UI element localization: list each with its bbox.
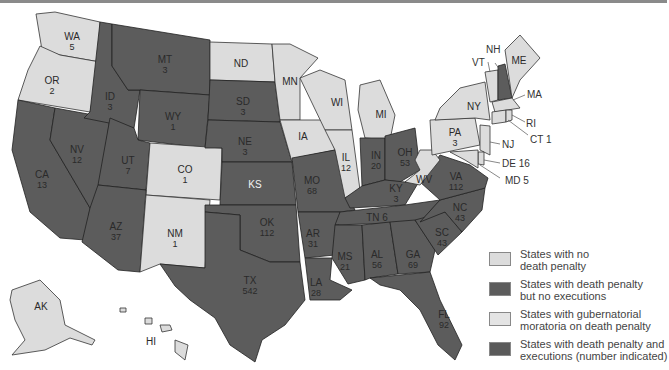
legend-swatch [489, 342, 511, 356]
state-AK [10, 280, 95, 355]
label-NC: NC43 [453, 203, 467, 223]
label-NM: NM1 [167, 229, 183, 249]
legend-item-no-death-penalty: States with nodeath penalty [489, 248, 669, 273]
state-NJ [480, 125, 490, 155]
label-ND: ND [234, 59, 248, 69]
label-ME: ME [512, 56, 527, 66]
legend-swatch [489, 312, 511, 326]
label-GA: GA69 [406, 250, 420, 270]
label-OR: OR2 [45, 76, 60, 96]
label-NH: NH [486, 45, 500, 55]
label-UT: UT7 [121, 156, 134, 176]
label-NY: NY [467, 102, 481, 112]
legend: States with nodeath penalty States with … [489, 248, 669, 368]
label-MN: MN [282, 77, 298, 87]
label-MO: MO68 [304, 176, 320, 196]
label-LA: LA28 [310, 278, 322, 298]
label-CA: CA13 [35, 170, 49, 190]
label-AK: AK [34, 302, 47, 312]
label-AR: AR31 [306, 229, 320, 249]
label-WY: WY1 [165, 112, 181, 132]
label-CT: CT 1 [530, 135, 552, 145]
label-NV: NV12 [70, 145, 84, 165]
label-KS: KS [248, 180, 261, 190]
label-VT: VT [472, 58, 485, 68]
label-CO: CO1 [178, 165, 193, 185]
label-AL: AL56 [371, 250, 383, 270]
label-DE: DE 16 [502, 159, 530, 169]
label-AZ: AZ37 [110, 222, 123, 242]
label-NE: NE3 [238, 137, 252, 157]
legend-item-moratoria: States with gubernatorialmoratoria on de… [489, 308, 669, 333]
label-IN: IN20 [371, 151, 381, 171]
label-OK: OK112 [260, 218, 274, 238]
label-MI: MI [375, 110, 386, 120]
label-IA: IA [298, 132, 307, 142]
label-PA: PA3 [449, 128, 462, 148]
state-RI [506, 110, 512, 122]
label-KY: KY3 [389, 184, 402, 204]
label-MD: MD 5 [505, 176, 529, 186]
label-TX: TX542 [242, 276, 257, 296]
label-WI: WI [331, 98, 343, 108]
label-MS: MS21 [338, 252, 353, 272]
state-CT [492, 110, 506, 124]
legend-swatch [489, 252, 511, 266]
label-MA: MA [527, 90, 542, 100]
legend-swatch [489, 282, 511, 296]
label-HI: HI [146, 337, 156, 347]
label-SD: SD3 [236, 97, 250, 117]
label-RI: RI [526, 119, 536, 129]
state-DE [478, 152, 484, 165]
label-IL: IL12 [341, 153, 351, 173]
label-TN: TN 6 [366, 213, 388, 223]
legend-item-death-penalty-executions: States with death penalty andexecutions … [489, 338, 669, 363]
state-HI [120, 308, 188, 360]
state-NY [435, 82, 490, 120]
label-VA: VA112 [449, 172, 463, 192]
legend-item-death-penalty-no-executions: States with death penaltybut no executio… [489, 278, 669, 303]
label-OH: OH53 [398, 148, 413, 168]
label-MT: MT3 [158, 55, 172, 75]
label-SC: SC43 [435, 228, 449, 248]
label-WA: WA5 [64, 32, 80, 52]
label-WV: WV [416, 175, 432, 185]
label-FL: FL92 [438, 310, 450, 330]
label-NJ: NJ [502, 140, 514, 150]
label-ID: ID3 [105, 92, 115, 112]
